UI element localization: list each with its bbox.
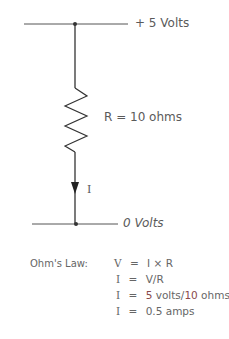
equation-row: V = I × R [114, 257, 173, 269]
equation-rhs: 0.5 amps [146, 305, 195, 317]
current-arrow-icon [71, 182, 79, 194]
equation-row: I = 0.5 amps [114, 305, 195, 317]
equation-rhs: V/R [146, 273, 164, 285]
equation-equals: = [129, 273, 138, 285]
equation-units-end: ohms [198, 289, 229, 301]
top-rail-label: + 5 Volts [135, 16, 189, 30]
ohms-law-title: Ohm's Law: [30, 258, 88, 269]
bottom-junction-dot [74, 222, 78, 226]
bottom-rail-label: 0 Volts [123, 216, 164, 230]
current-label: I [87, 183, 91, 196]
equation-equals: = [129, 305, 138, 317]
equation-lhs: I [116, 305, 120, 317]
resistor-label: R = 10 ohms [104, 110, 182, 124]
equation-row: I = 5 volts/10 ohms [114, 289, 229, 301]
equation-equals: = [129, 289, 138, 301]
equation-equals: = [130, 257, 139, 269]
equation-lhs: I [116, 273, 120, 285]
equation-rhs: I × R [147, 257, 173, 269]
equation-lhs: I [116, 289, 120, 301]
equation-lhs: V [114, 257, 122, 269]
equation-units-mid: volts/ [152, 289, 184, 301]
resistor-symbol [65, 88, 87, 152]
equation-row: I = V/R [114, 273, 164, 285]
resistance-value: 10 [184, 289, 197, 301]
